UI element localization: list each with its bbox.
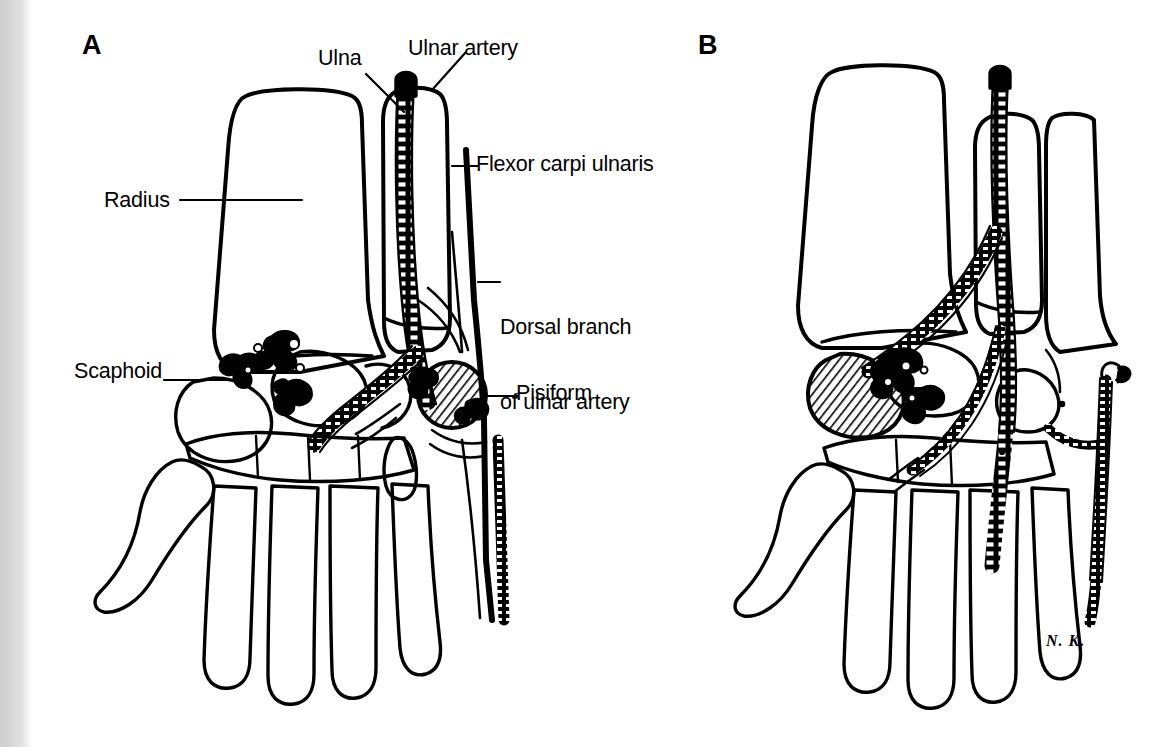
annotation-scaphoid: Scaphoid xyxy=(74,359,162,384)
artist-signature: N. K. xyxy=(1046,632,1085,650)
annotation-dorsal-branch-line-1: Dorsal branch xyxy=(500,315,631,340)
annotation-dorsal-branch-of-ulnar-artery: Dorsal branch of ulnar artery xyxy=(500,265,631,465)
annotation-flexor-carpi-ulnaris: Flexor carpi ulnaris xyxy=(476,152,654,177)
figure-canvas: A B Ulna Ulnar artery Radius Flexor carp… xyxy=(0,0,1170,747)
panel-label-b: B xyxy=(698,32,718,59)
annotation-radius: Radius xyxy=(104,188,170,213)
annotation-ulnar-artery: Ulnar artery xyxy=(408,36,518,61)
panel-b-artwork xyxy=(735,65,1130,708)
distal-ulnar-vessel-b xyxy=(1090,363,1130,622)
annotation-ulna: Ulna xyxy=(318,46,361,71)
annotation-pisiform: Pisiform xyxy=(516,381,592,406)
ulnar-side-vessel-distal xyxy=(498,440,504,620)
panel-label-a: A xyxy=(82,32,102,59)
